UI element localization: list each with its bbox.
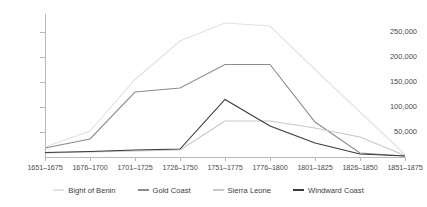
legend-swatch-icon [293, 189, 304, 191]
chart-legend: Bight of BeninGold CoastSierra LeoneWind… [0, 180, 417, 200]
legend-item-sierra-leone[interactable]: Sierra Leone [213, 186, 271, 195]
series-line-windward-coast [45, 100, 405, 157]
legend-swatch-icon [53, 189, 64, 191]
legend-label: Bight of Benin [68, 186, 115, 195]
legend-label: Gold Coast [153, 186, 191, 195]
series-line-sierra-leone [45, 121, 405, 156]
legend-item-windward-coast[interactable]: Windward Coast [293, 186, 364, 195]
legend-label: Sierra Leone [228, 186, 271, 195]
legend-item-bight-of-benin[interactable]: Bight of Benin [53, 186, 115, 195]
legend-item-gold-coast[interactable]: Gold Coast [138, 186, 191, 195]
legend-label: Windward Coast [308, 186, 364, 195]
legend-swatch-icon [138, 189, 149, 191]
legend-swatch-icon [213, 189, 224, 191]
series-line-gold-coast [45, 65, 405, 157]
